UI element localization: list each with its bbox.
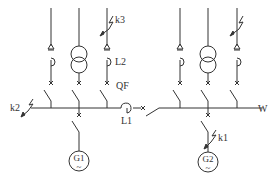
feeder-left-transformer — [71, 8, 87, 108]
transformer-winding-icon — [71, 57, 87, 73]
fault-arrow-icon — [100, 31, 104, 36]
label-k3: k3 — [115, 15, 125, 25]
reactor-L1-icon — [121, 103, 131, 113]
generator-G1-symbol: ~ — [71, 163, 87, 172]
feeder-right-3 — [230, 8, 243, 108]
reactor-icon — [237, 58, 241, 66]
label-L2: L2 — [115, 57, 126, 67]
reactor-icon — [51, 58, 55, 66]
feeder-left-3 — [100, 8, 113, 108]
lightning-icon — [28, 99, 33, 111]
fault-arrow-icon — [204, 144, 208, 149]
diagram-drawing — [0, 0, 274, 190]
label-QF: QF — [116, 81, 129, 91]
label-W: W — [258, 104, 267, 114]
generator-G2-symbol: ~ — [200, 164, 216, 173]
feeder-right-1 — [173, 8, 184, 108]
label-L1: L1 — [121, 116, 132, 126]
transformer-winding-icon — [200, 57, 216, 73]
triangle-icon — [234, 44, 240, 49]
triangle-icon — [48, 44, 54, 49]
lightning-icon — [109, 16, 113, 29]
label-k2: k2 — [10, 103, 20, 113]
fault-arrow-icon — [230, 31, 234, 36]
fault-arrow-icon — [21, 112, 25, 117]
feeder-left-1 — [44, 8, 55, 108]
triangle-icon — [177, 44, 183, 49]
lightning-icon — [239, 16, 243, 29]
triangle-icon — [104, 44, 110, 49]
reactor-icon — [107, 58, 111, 66]
breaker-marker-icon — [141, 106, 145, 110]
feeder-right-transformer — [200, 8, 216, 108]
reactor-icon — [180, 58, 184, 66]
label-k1: k1 — [218, 133, 228, 143]
single-line-diagram: k3 L2 QF k2 L1 W k1 G1 ~ G2 ~ — [0, 0, 274, 190]
lightning-icon — [211, 130, 216, 142]
bus-section-switch — [146, 108, 159, 116]
